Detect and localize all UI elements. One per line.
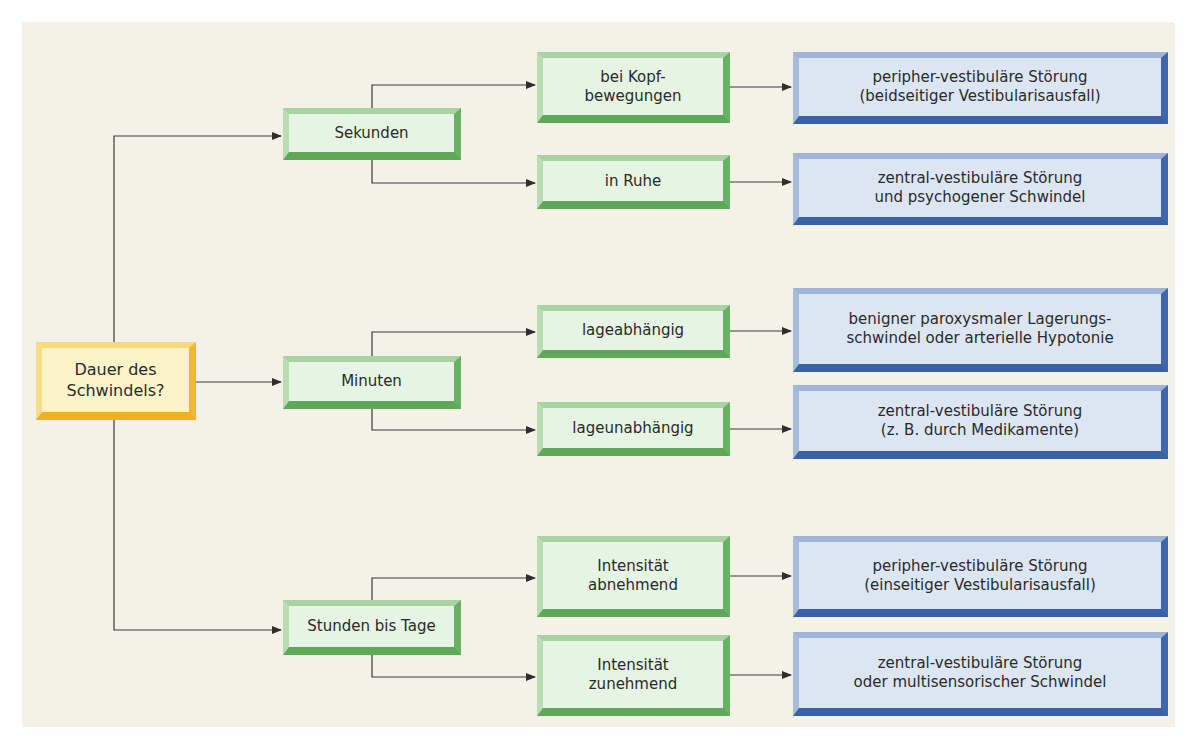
result-central-psychogenic-box: zentral-vestibuläre Störung und psychoge… — [793, 153, 1168, 225]
duration-seconds-box: Sekunden — [283, 108, 461, 160]
result-central-medication-box: zentral-vestibuläre Störung (z. B. durch… — [793, 385, 1168, 459]
result-peripheral-unilateral-box: peripher-vestibuläre Störung (einseitige… — [793, 536, 1168, 617]
condition-position-independent-box: lageunabhängig — [537, 402, 730, 456]
condition-at-rest-box: in Ruhe — [537, 155, 730, 209]
result-bppv-hypotension-box: benigner paroxysmaler Lagerungs- schwind… — [793, 288, 1168, 372]
duration-minutes-box: Minuten — [283, 356, 461, 409]
result-peripheral-bilateral-box: peripher-vestibuläre Störung (beidseitig… — [793, 52, 1168, 124]
condition-head-movement-box: bei Kopf- bewegungen — [537, 52, 730, 123]
condition-intensity-increasing-box: Intensität zunehmend — [537, 635, 730, 716]
condition-position-dependent-box: lageabhängig — [537, 305, 730, 358]
root-question-box: Dauer des Schwindels? — [36, 342, 196, 420]
condition-intensity-decreasing-box: Intensität abnehmend — [537, 536, 730, 617]
duration-hours-days-box: Stunden bis Tage — [283, 600, 461, 655]
result-central-multisensory-box: zentral-vestibuläre Störung oder multise… — [793, 632, 1168, 716]
